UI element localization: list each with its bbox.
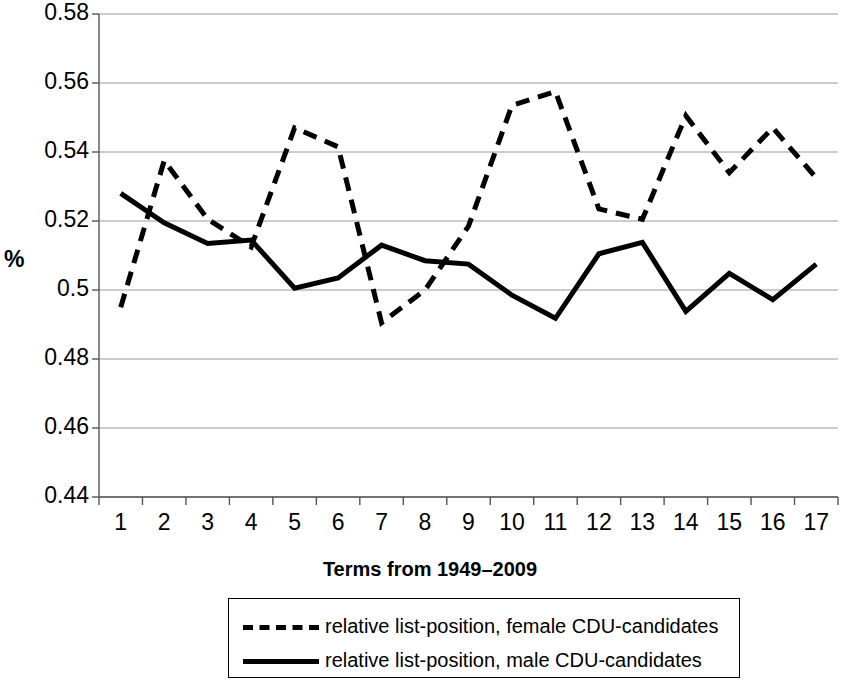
x-axis-tick-label: 3 (185, 509, 231, 536)
x-axis-tick-label: 1 (98, 509, 144, 536)
y-axis-tick-label: 0.54 (11, 137, 89, 164)
x-axis-tick-label: 9 (446, 509, 492, 536)
x-axis-tick-label: 12 (576, 509, 622, 536)
plot-area (0, 0, 860, 540)
y-axis-tick-label: 0.52 (11, 206, 89, 233)
legend-swatch-solid-icon (243, 650, 319, 670)
legend-label-female: relative list-position, female CDU-candi… (325, 615, 719, 638)
x-axis-tick-label: 8 (402, 509, 448, 536)
x-axis-tick-label: 7 (359, 509, 405, 536)
x-axis-tick-label: 5 (272, 509, 318, 536)
x-axis-title: Terms from 1949–2009 (0, 558, 860, 581)
y-axis-tick-label: 0.58 (11, 0, 89, 26)
legend-swatch-dashed-icon (243, 616, 319, 636)
x-axis-tick-label: 10 (489, 509, 535, 536)
chart-figure: % 0.440.460.480.50.520.540.560.58 123456… (0, 0, 860, 690)
legend-item-male: relative list-position, male CDU-candida… (229, 643, 741, 677)
chart-legend: relative list-position, female CDU-candi… (228, 598, 740, 678)
x-axis-tick-label: 13 (619, 509, 665, 536)
x-axis-tick-label: 15 (706, 509, 752, 536)
x-axis-tick-label: 11 (532, 509, 578, 536)
x-axis-tick-label: 17 (793, 509, 839, 536)
series-line-male (121, 193, 817, 318)
x-axis-tick-label: 16 (750, 509, 796, 536)
y-axis-tick-label: 0.46 (11, 413, 89, 440)
legend-item-female: relative list-position, female CDU-candi… (229, 609, 741, 643)
y-axis-tick-label: 0.48 (11, 344, 89, 371)
x-axis-tick-label: 6 (315, 509, 361, 536)
y-axis-tick-label: 0.56 (11, 68, 89, 95)
y-axis-tick-label: 0.44 (11, 482, 89, 509)
y-axis-tick-label: 0.5 (11, 275, 89, 302)
x-axis-tick-label: 14 (663, 509, 709, 536)
legend-label-male: relative list-position, male CDU-candida… (325, 649, 702, 672)
x-axis-tick-label: 2 (141, 509, 187, 536)
x-axis-tick-label: 4 (228, 509, 274, 536)
